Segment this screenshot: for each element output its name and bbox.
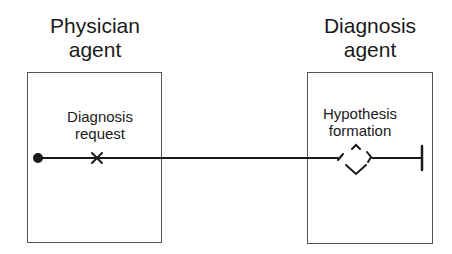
start-point-icon xyxy=(33,153,43,163)
or-fork-diamond-right-icon xyxy=(367,152,371,162)
or-fork-diamond-icon xyxy=(338,145,360,160)
use-case-path xyxy=(0,0,452,254)
or-fork-diamond-bottom-icon xyxy=(346,165,366,174)
